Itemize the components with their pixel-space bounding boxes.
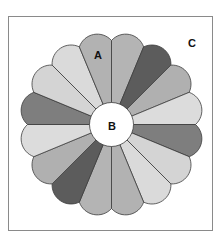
label-b: B [108, 121, 116, 132]
label-a: A [94, 50, 102, 61]
label-c: C [188, 38, 196, 49]
